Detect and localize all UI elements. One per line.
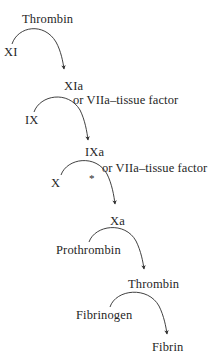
substrate-label-ix: IX (25, 114, 39, 127)
substrate-label-x: X (51, 177, 60, 190)
product-label-ixa: IXa (85, 146, 104, 159)
product-label-fibrin: Fibrin (152, 341, 183, 354)
enzyme-label-thrombin-top: Thrombin (22, 13, 73, 26)
arrow-xi-to-xia (12, 29, 64, 69)
cofactor-label-viia-tissue-factor-1: or VIIa–tissue factor (73, 94, 178, 107)
substrate-label-fibrinogen: Fibrinogen (76, 309, 132, 322)
cofactor-label-viia-tissue-factor-2: or VIIa–tissue factor (102, 162, 207, 175)
coagulation-cascade-diagram: Thrombin XI XIa or VIIa–tissue factor IX… (0, 0, 211, 364)
product-label-xia: XIa (64, 80, 83, 93)
product-label-thrombin-mid: Thrombin (128, 278, 179, 291)
product-label-xa: Xa (110, 215, 125, 228)
substrate-label-prothrombin: Prothrombin (56, 244, 121, 257)
asterisk-footnote-marker: * (89, 173, 95, 184)
substrate-label-xi: XI (4, 46, 18, 59)
